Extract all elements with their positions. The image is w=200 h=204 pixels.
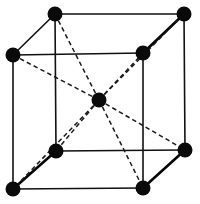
atom-body-center: Body-center atom [92,93,107,108]
edge-front-top [13,53,143,55]
edge-back-bottom [56,150,185,151]
lattice-diagram: Corner atom (front top left)Corner atom … [0,0,200,204]
bcc-unit-cell-figure: Corner atom (front top left)Corner atom … [0,0,200,204]
atom-front-top-right: Corner atom (front top right) [136,46,151,61]
diag-center-front-top-right [99,53,143,100]
atom-front-top-left: Corner atom (front top left) [6,48,21,63]
edge-top-right-depth [143,14,184,53]
edge-back-left [55,14,56,151]
atom-back-bottom-left: Corner atom (back bottom left) [49,144,64,159]
diag-center-back-bottom-left [56,100,99,151]
atom-back-bottom-right: Corner atom (back bottom right) [178,143,193,158]
diag-center-back-top-left [55,14,99,100]
edge-front-bottom [13,188,143,189]
edge-bottom-right-depth [143,150,185,188]
edge-bottom-left-depth [13,151,56,189]
diag-center-back-bottom-right [99,100,185,150]
atom-back-top-right: Corner atom (back top right) [177,7,192,22]
edge-back-right [184,14,185,150]
atom-front-bottom-left: Corner atom (front bottom left) [6,182,21,197]
edge-top-left-depth [13,14,55,55]
atom-back-top-left: Corner atom (back top left) [48,7,63,22]
atom-front-bottom-right: Corner atom (front bottom right) [136,181,151,196]
